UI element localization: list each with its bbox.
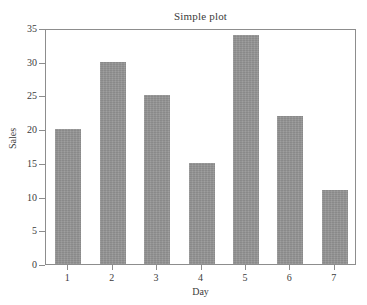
y-tick-label-35: 35	[7, 24, 37, 34]
x-tick-mark-7	[334, 265, 335, 270]
y-tick-label-10: 10	[7, 193, 37, 203]
bar-6	[277, 116, 303, 264]
bars-layer	[46, 30, 355, 264]
bar-5	[233, 35, 259, 264]
x-tick-label-3: 3	[144, 272, 168, 283]
x-tick-mark-2	[112, 265, 113, 270]
y-tick-label-5: 5	[7, 226, 37, 236]
x-tick-label-4: 4	[189, 272, 213, 283]
x-tick-mark-4	[201, 265, 202, 270]
y-tick-mark-0	[39, 265, 45, 266]
y-tick-label-15: 15	[7, 159, 37, 169]
chart-title: Simple plot	[45, 10, 356, 23]
x-tick-mark-5	[245, 265, 246, 270]
x-tick-label-1: 1	[55, 272, 79, 283]
bar-3	[144, 95, 170, 264]
bar-1	[55, 129, 81, 264]
x-tick-label-2: 2	[100, 272, 124, 283]
bar-2	[100, 62, 126, 264]
y-tick-label-25: 25	[7, 91, 37, 101]
x-tick-mark-3	[156, 265, 157, 270]
y-tick-label-0: 0	[7, 260, 37, 270]
x-tick-mark-6	[289, 265, 290, 270]
x-axis-title: Day	[45, 286, 356, 297]
bar-7	[322, 190, 348, 264]
bar-4	[189, 163, 215, 264]
plot-area-frame	[45, 29, 356, 265]
bar-chart-figure: Simple plot Sales Day 05101520253035 123…	[0, 0, 367, 305]
x-tick-label-6: 6	[277, 272, 301, 283]
x-tick-mark-1	[67, 265, 68, 270]
y-tick-label-20: 20	[7, 125, 37, 135]
x-tick-label-5: 5	[233, 272, 257, 283]
y-tick-label-30: 30	[7, 58, 37, 68]
x-tick-label-7: 7	[322, 272, 346, 283]
